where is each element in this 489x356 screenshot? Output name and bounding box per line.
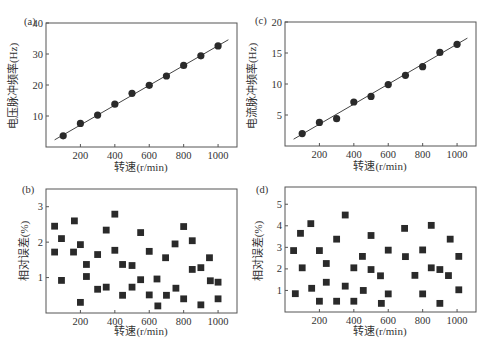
x-tick-label: 1000: [208, 316, 229, 327]
data-point-circle: [60, 132, 67, 139]
data-point-square: [77, 241, 84, 248]
data-point-square: [111, 247, 118, 254]
panel-label-d: (d): [256, 184, 269, 196]
data-point-circle: [197, 52, 204, 59]
data-point-square: [292, 290, 299, 297]
data-point-square: [378, 300, 385, 307]
data-point-circle: [299, 130, 306, 137]
data-point-square: [215, 279, 222, 286]
data-point-square: [368, 232, 375, 239]
data-point-square: [401, 225, 408, 232]
x-axis-label-d: 转速(r/min): [353, 324, 406, 338]
x-tick-label: 800: [176, 316, 192, 327]
data-point-square: [189, 237, 196, 244]
data-point-square: [103, 284, 110, 291]
data-point-circle: [350, 98, 357, 105]
data-point-circle: [94, 111, 101, 118]
data-point-square: [154, 303, 161, 310]
y-tick-label: 10: [272, 79, 283, 90]
x-tick-label: 800: [415, 315, 431, 326]
y-tick-label: 20: [33, 80, 44, 91]
panel-d-relative-error: (d) 200400600800100012345 转速(r/min) 相对误差…: [251, 184, 476, 338]
data-point-square: [290, 247, 297, 254]
data-point-square: [419, 290, 426, 297]
data-point-square: [359, 253, 366, 260]
data-point-square: [308, 285, 315, 292]
data-point-circle: [163, 72, 170, 79]
plot-area-c: 20040060080010005101520: [272, 17, 477, 161]
data-point-square: [455, 286, 462, 293]
plot-area-b: 2004006008001000123: [38, 189, 237, 327]
y-tick-label: 15: [272, 48, 283, 59]
y-tick-label: 3: [277, 242, 282, 253]
data-point-square: [94, 251, 101, 258]
data-point-square: [197, 301, 204, 308]
data-point-square: [419, 247, 426, 254]
panel-a-voltage-pulse-frequency: (a) 200400600800100010203040 转速(r/min) 电…: [6, 16, 237, 174]
data-point-square: [70, 249, 77, 256]
data-point-square: [119, 261, 126, 268]
x-axis-label-c: 转速(r/min): [353, 159, 406, 173]
data-point-square: [207, 277, 214, 284]
figure: (a) 200400600800100010203040 转速(r/min) 电…: [0, 0, 489, 356]
y-tick-label: 5: [277, 110, 282, 121]
data-point-square: [111, 211, 118, 218]
data-point-square: [137, 276, 144, 283]
x-tick-label: 800: [176, 150, 192, 161]
data-point-square: [436, 300, 443, 307]
x-tick-label: 200: [312, 149, 328, 160]
data-point-square: [180, 295, 187, 302]
data-point-circle: [77, 120, 84, 127]
y-axis-label-d: 相对误差(%): [251, 220, 265, 281]
data-point-square: [350, 264, 357, 271]
data-point-square: [455, 253, 462, 260]
data-point-square: [137, 229, 144, 236]
data-point-square: [77, 299, 84, 306]
data-point-square: [189, 266, 196, 273]
data-point-circle: [128, 90, 135, 97]
data-point-square: [180, 223, 187, 230]
data-point-square: [428, 264, 435, 271]
data-point-square: [447, 236, 454, 243]
data-point-square: [428, 222, 435, 229]
y-tick-label: 4: [277, 220, 283, 231]
x-axis-label-b: 转速(r/min): [114, 324, 167, 338]
x-tick-label: 400: [107, 150, 123, 161]
data-point-square: [333, 236, 340, 243]
data-point-circle: [111, 101, 118, 108]
data-point-square: [385, 247, 392, 254]
x-tick-label: 600: [380, 149, 396, 160]
data-point-square: [445, 272, 452, 279]
x-tick-label: 1000: [447, 149, 468, 160]
x-tick-label: 200: [312, 315, 328, 326]
data-point-square: [154, 276, 161, 283]
data-point-square: [368, 266, 375, 273]
data-point-square: [146, 292, 153, 299]
panel-b-relative-error: (b) 2004006008001000123 转速(r/min) 相对误差(%…: [17, 184, 237, 338]
x-tick-label: 800: [415, 149, 431, 160]
data-point-square: [402, 253, 409, 260]
data-point-square: [129, 262, 136, 269]
data-point-square: [342, 212, 349, 219]
y-tick-label: 1: [277, 285, 282, 296]
data-point-square: [129, 284, 136, 291]
data-point-square: [51, 249, 58, 256]
data-point-circle: [419, 63, 426, 70]
x-tick-label: 1000: [208, 150, 229, 161]
data-point-square: [146, 248, 153, 255]
data-point-square: [350, 298, 357, 305]
x-axis-label-a: 转速(r/min): [114, 160, 167, 174]
x-tick-label: 200: [73, 150, 89, 161]
data-point-square: [51, 223, 58, 230]
data-point-square: [119, 292, 126, 299]
figure-canvas: (a) 200400600800100010203040 转速(r/min) 电…: [0, 0, 489, 356]
data-point-square: [94, 286, 101, 293]
data-point-square: [385, 290, 392, 297]
x-tick-label: 200: [73, 316, 89, 327]
data-point-circle: [453, 41, 460, 48]
y-axis-label-c: 电流脉冲频率(Hz): [245, 43, 259, 129]
data-point-square: [172, 241, 179, 248]
data-point-square: [299, 264, 306, 271]
x-tick-label: 1000: [447, 315, 468, 326]
data-point-square: [71, 217, 78, 224]
